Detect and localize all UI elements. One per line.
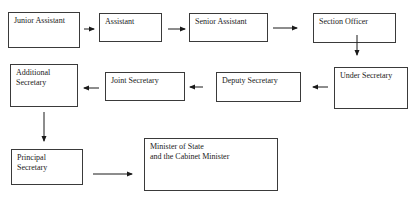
connector-arrows [0, 0, 418, 205]
